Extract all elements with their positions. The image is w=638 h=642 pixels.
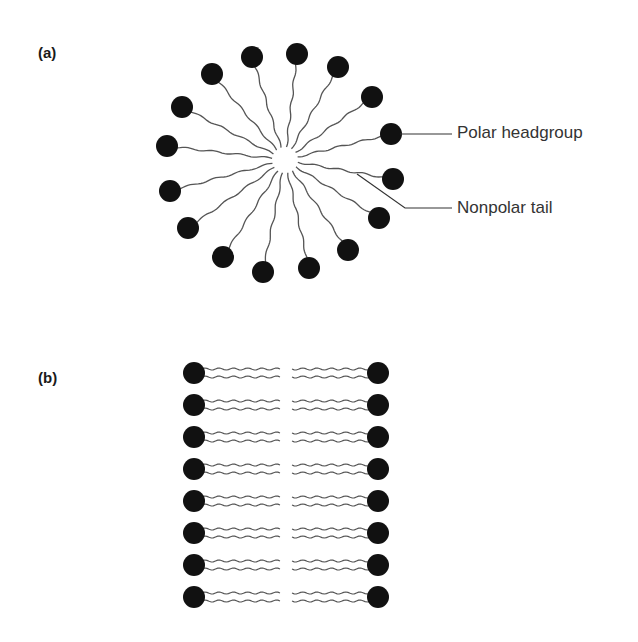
headgroup <box>183 522 205 544</box>
headgroup <box>183 458 205 480</box>
headgroup <box>212 246 234 268</box>
headgroup <box>156 135 178 157</box>
tail <box>292 504 378 506</box>
tail <box>286 54 297 147</box>
headgroup <box>327 56 349 78</box>
headgroup <box>183 586 205 608</box>
headgroup <box>183 362 205 384</box>
tail <box>292 432 378 434</box>
headgroup <box>201 63 223 85</box>
tail <box>252 57 281 148</box>
headgroup <box>367 426 389 448</box>
headgroup <box>368 207 390 229</box>
tail <box>298 134 391 157</box>
tail <box>194 400 280 402</box>
tail <box>292 440 378 442</box>
tail <box>263 173 282 272</box>
tail <box>292 408 378 410</box>
tail <box>296 167 379 218</box>
tail <box>194 368 280 370</box>
headgroup <box>183 490 205 512</box>
headgroup <box>367 490 389 512</box>
headgroup <box>382 168 404 190</box>
tail <box>292 472 378 474</box>
bilayer <box>183 362 389 608</box>
tail <box>288 173 309 268</box>
headgroup <box>183 554 205 576</box>
headgroup <box>367 554 389 576</box>
tail <box>292 376 378 378</box>
tail <box>194 464 280 466</box>
callout-lines <box>357 134 452 208</box>
headgroup <box>183 394 205 416</box>
tail <box>194 528 280 530</box>
headgroup <box>367 586 389 608</box>
tail <box>194 496 280 498</box>
tail <box>292 600 378 602</box>
tail <box>292 400 378 402</box>
headgroup <box>298 257 320 279</box>
micelle <box>156 43 404 283</box>
headgroup <box>241 46 263 68</box>
tail <box>167 146 272 158</box>
headgroup <box>159 180 181 202</box>
lipid-diagram <box>0 0 638 642</box>
headgroup <box>337 239 359 261</box>
tail <box>194 536 280 538</box>
tail <box>292 368 378 370</box>
headgroup <box>367 458 389 480</box>
tail <box>292 528 378 530</box>
tail <box>194 408 280 410</box>
headgroup <box>171 96 193 118</box>
tail <box>194 504 280 506</box>
headgroup <box>177 217 199 239</box>
tail <box>194 592 280 594</box>
tail <box>194 568 280 570</box>
headgroup <box>183 426 205 448</box>
tail <box>291 67 338 149</box>
tail <box>292 536 378 538</box>
headgroup <box>380 123 402 145</box>
tail <box>296 97 372 152</box>
tail <box>170 163 272 191</box>
tail <box>194 376 280 378</box>
tail <box>188 167 274 228</box>
headgroup <box>252 261 274 283</box>
headgroup <box>367 522 389 544</box>
tail <box>194 600 280 602</box>
tail <box>194 432 280 434</box>
tail <box>292 592 378 594</box>
tail <box>194 440 280 442</box>
tail <box>194 472 280 474</box>
headgroup <box>367 394 389 416</box>
tail <box>292 496 378 498</box>
headgroup <box>367 362 389 384</box>
headgroup <box>361 86 383 108</box>
tail <box>292 568 378 570</box>
tail <box>292 560 378 562</box>
tail <box>298 162 393 179</box>
tail <box>292 464 378 466</box>
headgroup <box>286 43 308 65</box>
tail <box>194 560 280 562</box>
